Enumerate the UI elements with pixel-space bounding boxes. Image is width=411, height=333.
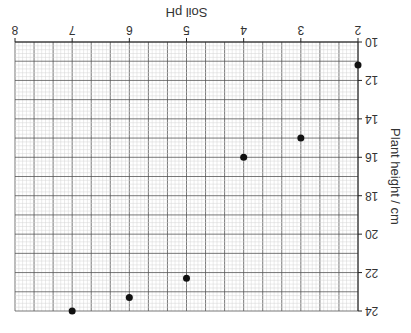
y-axis-ticks: 1012141618202224: [358, 35, 378, 318]
chart-container: 23456781012141618202224Soil pHPlant heig…: [0, 0, 411, 333]
y-tick-label: 18: [365, 189, 379, 203]
y-axis-label: Plant height / cm: [388, 128, 403, 225]
data-point: [183, 275, 190, 282]
data-point: [355, 62, 362, 69]
grid: [15, 42, 358, 311]
x-axis-ticks: 2345678: [11, 23, 361, 42]
x-tick-label: 6: [126, 23, 133, 37]
x-tick-label: 4: [240, 23, 247, 37]
y-tick-label: 20: [365, 227, 379, 241]
y-tick-label: 22: [365, 266, 379, 280]
y-tick-label: 14: [365, 112, 379, 126]
data-point: [126, 294, 133, 301]
x-tick-label: 7: [69, 23, 76, 37]
y-tick-label: 10: [365, 35, 379, 49]
data-point: [240, 154, 247, 161]
y-tick-label: 24: [365, 304, 379, 318]
y-tick-label: 16: [365, 150, 379, 164]
x-axis-label: Soil pH: [166, 5, 208, 20]
data-point: [69, 308, 76, 315]
data-point: [297, 135, 304, 142]
x-tick-label: 8: [11, 23, 18, 37]
x-tick-label: 3: [297, 23, 304, 37]
x-tick-label: 2: [354, 23, 361, 37]
y-tick-label: 12: [365, 73, 379, 87]
scatter-plot: 23456781012141618202224Soil pHPlant heig…: [0, 0, 411, 333]
x-tick-label: 5: [183, 23, 190, 37]
